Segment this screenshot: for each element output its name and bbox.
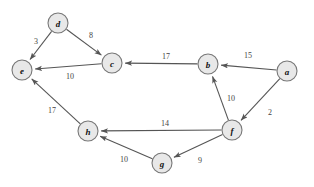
edge-weight-h-e: 17 xyxy=(48,106,56,115)
edge-weight-d-c: 8 xyxy=(89,31,93,40)
edge-labels-layer: 381017151021417910 xyxy=(34,31,272,165)
graph-svg: 381017151021417910 abcdefgh xyxy=(0,0,314,187)
edges-layer xyxy=(30,29,280,159)
graph-edge-a-b xyxy=(221,65,276,70)
node-label-b: b xyxy=(206,60,211,70)
graph-node-g[interactable]: g xyxy=(152,153,172,173)
node-label-e: e xyxy=(20,66,24,76)
edge-weight-g-h: 10 xyxy=(120,155,128,164)
edge-weight-a-f: 2 xyxy=(268,108,272,117)
graph-edge-b-c xyxy=(125,63,197,64)
graph-node-h[interactable]: h xyxy=(78,121,98,141)
edge-weight-c-e: 10 xyxy=(66,72,74,81)
node-label-d: d xyxy=(56,19,61,29)
graph-node-c[interactable]: c xyxy=(102,53,122,73)
graph-edge-d-c xyxy=(66,29,101,55)
graph-node-b[interactable]: b xyxy=(198,54,218,74)
edge-weight-b-c: 17 xyxy=(162,52,170,61)
graph-edge-f-g xyxy=(174,134,223,157)
edge-weight-f-h: 14 xyxy=(161,119,169,128)
graph-edge-f-h xyxy=(101,130,221,131)
node-label-g: g xyxy=(159,159,165,169)
edge-weight-f-g: 9 xyxy=(198,156,202,165)
nodes-layer: abcdefgh xyxy=(12,13,297,173)
graph-edge-c-e xyxy=(35,64,101,69)
edge-weight-a-b: 15 xyxy=(244,51,252,60)
graph-node-f[interactable]: f xyxy=(222,120,242,140)
graph-diagram: 381017151021417910 abcdefgh xyxy=(0,0,314,187)
edge-weight-f-b: 10 xyxy=(227,94,235,103)
node-label-a: a xyxy=(285,67,290,77)
graph-node-a[interactable]: a xyxy=(277,61,297,81)
edge-weight-d-e: 3 xyxy=(34,37,38,46)
node-label-c: c xyxy=(110,59,114,69)
graph-node-e[interactable]: e xyxy=(12,60,32,80)
graph-edge-h-e xyxy=(32,79,81,124)
graph-edge-a-f xyxy=(241,79,280,121)
graph-node-d[interactable]: d xyxy=(48,13,68,33)
node-label-h: h xyxy=(85,127,90,137)
